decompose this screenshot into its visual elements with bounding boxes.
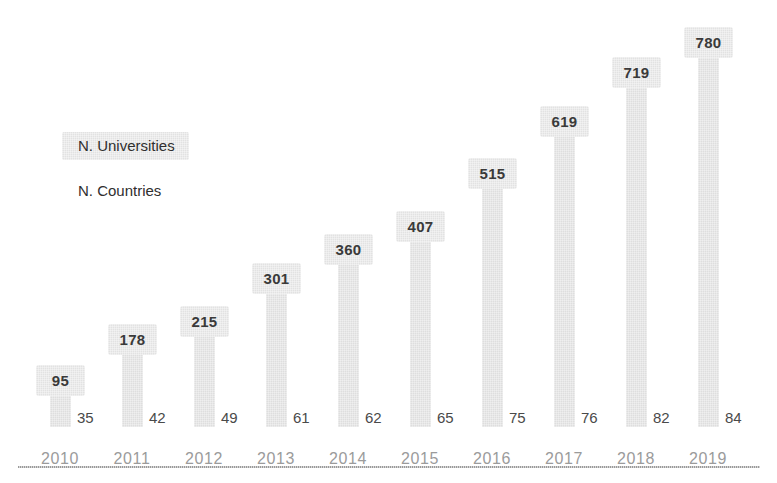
bar-group: 515752016 <box>456 0 528 440</box>
bar-universities[interactable] <box>554 121 575 427</box>
bar-value-label: 95 <box>36 365 85 396</box>
bar-group: 407652015 <box>384 0 456 440</box>
bar-universities[interactable] <box>698 42 719 427</box>
bar-value-label: 301 <box>252 263 301 294</box>
bar-value-label: 780 <box>684 27 733 58</box>
legend-item-universities[interactable]: N. Universities <box>62 132 189 160</box>
country-value-label: 84 <box>719 409 763 426</box>
bar-universities[interactable] <box>482 173 503 427</box>
bar-value-label: 360 <box>324 234 373 265</box>
plot-area: 9535201017842201121549201230161201336062… <box>0 0 777 440</box>
bar-group: 215492012 <box>168 0 240 440</box>
bar-value-label: 515 <box>468 158 517 189</box>
bar-group: 619762017 <box>528 0 600 440</box>
bar-group: 301612013 <box>240 0 312 440</box>
bar-value-label: 719 <box>612 57 661 88</box>
chart-legend: N. Universities N. Countries <box>62 132 189 205</box>
bar-universities[interactable] <box>266 278 287 427</box>
legend-item-countries[interactable]: N. Countries <box>62 177 175 205</box>
bar-group: 95352010 <box>24 0 96 440</box>
bar-universities[interactable] <box>410 226 431 427</box>
bar-value-label: 215 <box>180 306 229 337</box>
axis-baseline-rule <box>18 466 760 468</box>
bar-value-label: 407 <box>396 211 445 242</box>
bar-universities[interactable] <box>626 72 647 427</box>
bar-group: 780842019 <box>672 0 744 440</box>
legend-row-universities: N. Universities <box>62 132 189 160</box>
legend-row-countries: N. Countries <box>62 177 189 205</box>
bar-value-label: 619 <box>540 106 589 137</box>
bar-group: 360622014 <box>312 0 384 440</box>
bar-universities[interactable] <box>338 249 359 427</box>
chart-container: 9535201017842201121549201230161201336062… <box>0 0 777 483</box>
bar-value-label: 178 <box>108 324 157 355</box>
bar-group: 178422011 <box>96 0 168 440</box>
bar-group: 719822018 <box>600 0 672 440</box>
